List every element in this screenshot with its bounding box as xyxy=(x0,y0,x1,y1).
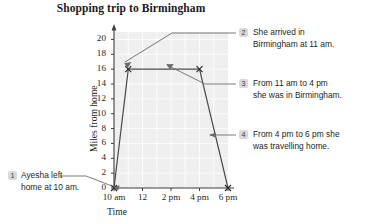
callout-2-line-1: She arrived in xyxy=(253,26,365,38)
callout-text-4: From 4 pm to 6 pm she was travelling hom… xyxy=(253,128,365,153)
y-tick-label: 2 xyxy=(90,167,106,177)
callout-1-line-1: Ayesha left xyxy=(21,169,91,181)
y-tick-label: 8 xyxy=(90,123,106,133)
y-tick-label: 16 xyxy=(90,63,106,73)
callout-text-3: From 11 am to 4 pm she was in Birmingham… xyxy=(253,77,365,102)
callout-badge-2: 2 xyxy=(239,28,248,37)
y-tick-label: 20 xyxy=(90,33,106,43)
callout-2-line-2: Birmingham at 11 am. xyxy=(253,38,365,50)
chart-figure: Shopping trip to Birmingham xyxy=(0,0,369,224)
callout-text-1: Ayesha left home at 10 am. xyxy=(21,169,91,194)
y-tick-label: 4 xyxy=(90,152,106,162)
callout-4-line-2: was travelling home. xyxy=(253,140,365,152)
callout-badge-3: 3 xyxy=(239,79,248,88)
y-tick-label: 10 xyxy=(90,108,106,118)
y-axis-arrowhead xyxy=(112,24,117,31)
callout-3-line-1: From 11 am to 4 pm xyxy=(253,77,365,89)
callout-badge-1: 1 xyxy=(8,171,17,180)
callout-3-line-2: she was in Birmingham. xyxy=(253,89,365,101)
callout-1-line-2: home at 10 am. xyxy=(21,181,91,193)
x-tick-label: 6 pm xyxy=(208,192,248,202)
callout-text-2: She arrived in Birmingham at 11 am. xyxy=(253,26,365,51)
y-tick-label: 14 xyxy=(90,78,106,88)
x-axis-title: Time xyxy=(0,206,234,217)
y-tick-label: 18 xyxy=(90,48,106,58)
callout-4-line-1: From 4 pm to 6 pm she xyxy=(253,128,365,140)
y-tick-label: 12 xyxy=(90,93,106,103)
y-tick-label: 0 xyxy=(90,182,106,192)
callout-badge-4: 4 xyxy=(239,130,248,139)
y-tick-label: 6 xyxy=(90,137,106,147)
